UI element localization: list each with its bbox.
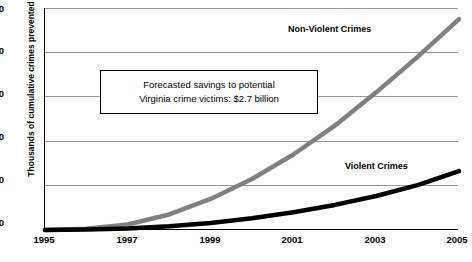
- series-label-nonviolent: Non-Violent Crimes: [288, 24, 371, 34]
- series-label-violent: Violent Crimes: [345, 161, 408, 171]
- y-axis-title: Thousands of cumulative crimes prevented: [26, 0, 36, 184]
- line-nonviolent: [45, 19, 459, 230]
- forecast-savings-annotation: Forecasted savings to potential Virginia…: [100, 70, 318, 114]
- x-tick-label-1997: 1997: [104, 234, 150, 245]
- x-tick-label-1999: 1999: [187, 234, 233, 245]
- y-tick-label-100: 100: [0, 3, 4, 14]
- x-tick-label-2001: 2001: [269, 234, 315, 245]
- y-tick-label-20: 20: [0, 174, 4, 185]
- y-tick-label-80: 80: [0, 45, 4, 56]
- y-tick-label-60: 60: [0, 88, 4, 99]
- plot-area: Non-Violent Crimes Violent Crimes Foreca…: [44, 8, 458, 230]
- x-tick-label-2005: 2005: [434, 234, 472, 245]
- series-lines: [45, 8, 459, 230]
- x-tick-label-1995: 1995: [21, 234, 67, 245]
- y-tick-label-40: 40: [0, 131, 4, 142]
- x-tick-label-2003: 2003: [352, 234, 398, 245]
- annotation-line-2: Virginia crime victims: $2.7 billion: [139, 92, 279, 106]
- y-tick-label-0: 0: [0, 217, 4, 228]
- annotation-line-1: Forecasted savings to potential: [143, 78, 275, 92]
